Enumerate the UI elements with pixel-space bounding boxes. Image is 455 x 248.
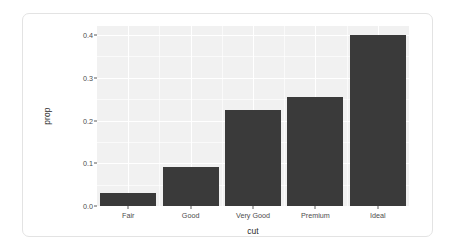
x-tick-mark: [253, 206, 254, 209]
gridline-minor-vertical: [222, 26, 223, 206]
bar-premium: [287, 97, 343, 206]
y-tick-label: 0.3: [83, 73, 93, 82]
y-axis-title: prop: [42, 86, 52, 146]
chart-card: prop 0.00.10.20.30.4 FairGoodVery GoodPr…: [22, 13, 433, 237]
x-tick-label: Ideal: [370, 211, 386, 220]
x-axis-title: cut: [97, 226, 409, 236]
gridline-major-vertical: [128, 26, 129, 206]
x-tick-mark: [190, 206, 191, 209]
y-axis-tick-labels: 0.00.10.20.30.4: [71, 14, 97, 238]
bar-very-good: [225, 110, 281, 206]
x-tick-mark: [315, 206, 316, 209]
x-tick-mark: [377, 206, 378, 209]
x-axis-tick-labels: FairGoodVery GoodPremiumIdeal: [97, 206, 409, 226]
x-tick-label: Premium: [301, 211, 330, 220]
x-tick-label: Fair: [122, 211, 134, 220]
bar-fair: [100, 193, 156, 206]
plot-panel: [97, 26, 409, 206]
gridline-minor-vertical: [159, 26, 160, 206]
bar-ideal: [350, 35, 406, 206]
x-tick-label: Very Good: [236, 211, 270, 220]
y-tick-label: 0.1: [83, 159, 93, 168]
x-tick-label: Good: [182, 211, 200, 220]
bar-chart: prop 0.00.10.20.30.4 FairGoodVery GoodPr…: [23, 14, 434, 238]
y-tick-label: 0.2: [83, 116, 93, 125]
bar-good: [163, 167, 219, 206]
gridline-minor-vertical: [284, 26, 285, 206]
y-tick-label: 0.0: [83, 202, 93, 211]
gridline-minor-vertical: [347, 26, 348, 206]
y-tick-label: 0.4: [83, 31, 93, 40]
x-tick-mark: [128, 206, 129, 209]
